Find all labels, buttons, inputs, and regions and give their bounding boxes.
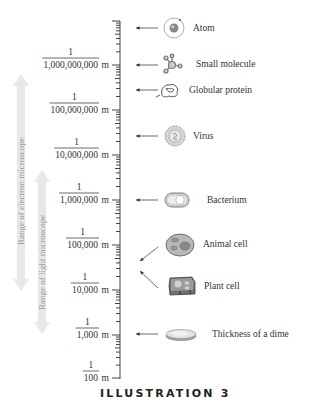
object-label-globular-protein: Globular protein <box>189 85 252 95</box>
animal-cell-icon <box>166 234 194 256</box>
electron-microscope-range: Range of electron microscope <box>13 74 29 291</box>
scale-numerator: 1 <box>68 47 73 57</box>
scale-label: m1,000,0001 <box>59 182 110 205</box>
scale-ruler <box>112 21 120 379</box>
arrowhead <box>136 63 140 66</box>
scale-unit: m <box>102 60 110 70</box>
scale-numerator: 1 <box>74 137 79 147</box>
light-range-label: Range of light microscope <box>37 215 47 310</box>
scale-numerator: 1 <box>80 227 85 237</box>
pointer-arrows <box>136 26 158 335</box>
scale-diagram: Range of electron microscope Range of li… <box>0 0 313 405</box>
arrowhead <box>136 198 140 201</box>
scale-label: m10,0001 <box>71 272 110 295</box>
scale-denominator: 1,000 <box>77 330 99 340</box>
object-label-small-molecule: Small molecule <box>196 59 255 69</box>
object-label-bacterium: Bacterium <box>207 195 247 205</box>
arrowhead <box>136 88 140 91</box>
scale-numerator: 1 <box>89 360 94 370</box>
scale-unit: m <box>102 330 110 340</box>
scale-unit: m <box>102 105 110 115</box>
scale-denominator: 10,000,000 <box>55 150 98 160</box>
arrowhead <box>136 134 140 137</box>
scale-unit: m <box>102 150 110 160</box>
scale-unit: m <box>102 195 110 205</box>
protein-icon <box>156 85 178 97</box>
scale-label: m10,000,0001 <box>54 137 109 160</box>
object-label-dime: Thickness of a dime <box>212 329 289 339</box>
scale-denominator: 100,000 <box>67 240 98 250</box>
light-microscope-range: Range of light microscope <box>34 170 50 334</box>
scale-denominator: 10,000 <box>72 285 98 295</box>
scale-unit: m <box>102 240 110 250</box>
object-label-atom: Atom <box>193 23 215 33</box>
scale-label: m1,0001 <box>76 317 110 340</box>
virus-icon <box>165 126 185 146</box>
scale-denominator: 1,000,000,000 <box>43 60 98 70</box>
illustration-title: ILLUSTRATION 3 <box>100 387 231 400</box>
scale-labels: m1,000,000,0001m100,000,0001m10,000,0001… <box>42 47 109 383</box>
scale-numerator: 1 <box>85 317 90 327</box>
scale-label: m1,000,000,0001 <box>42 47 109 70</box>
scale-label: m100,0001 <box>66 227 110 250</box>
arrowhead <box>136 26 140 29</box>
molecule-icon <box>164 54 182 73</box>
arrowhead <box>136 332 140 335</box>
scale-denominator: 100 <box>84 373 99 383</box>
scale-denominator: 100,000,000 <box>51 105 99 115</box>
scale-denominator: 1,000,000 <box>60 195 98 205</box>
scale-numerator: 1 <box>72 92 77 102</box>
atom-icon <box>164 18 184 38</box>
plant-cell-icon <box>169 277 195 295</box>
scale-numerator: 1 <box>83 272 88 282</box>
scale-label: m100,000,0001 <box>50 92 110 115</box>
dime-icon <box>166 330 196 341</box>
object-label-animal-cell: Animal cell <box>203 239 248 249</box>
electron-range-label: Range of electron microscope <box>16 137 26 245</box>
bacterium-icon <box>165 193 189 207</box>
object-label-plant-cell: Plant cell <box>204 281 240 291</box>
scale-numerator: 1 <box>77 182 82 192</box>
object-label-virus: Virus <box>193 131 214 141</box>
scale-label: m1001 <box>83 360 110 383</box>
scale-unit: m <box>102 373 110 383</box>
scale-unit: m <box>102 285 110 295</box>
pointer-arrow <box>140 271 158 288</box>
